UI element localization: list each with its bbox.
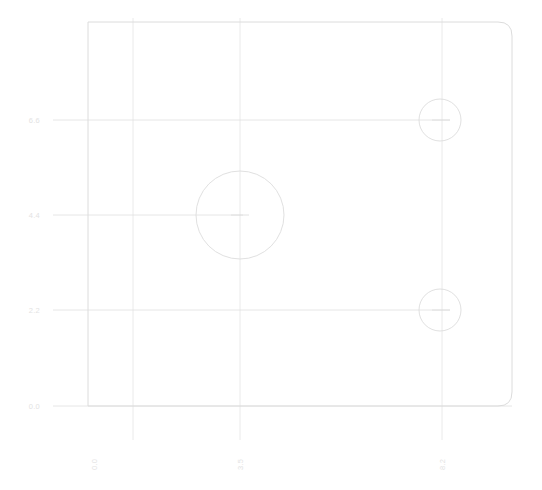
- y-axis-tick-label-6-6: 6.6: [14, 116, 40, 125]
- center-marks-group: [231, 120, 450, 310]
- x-axis-tick-label-0-0: 0.0: [90, 459, 99, 470]
- y-axis-tick-label-0-0: 0.0: [14, 402, 40, 411]
- technical-drawing-canvas: 6.6 4.4 2.2 0.0 0.0 3.5 8.2: [0, 0, 542, 490]
- y-axis-tick-label-4-4: 4.4: [14, 211, 40, 220]
- x-axis-tick-label-8-2: 8.2: [438, 459, 447, 470]
- x-axis-tick-label-3-5: 3.5: [236, 459, 245, 470]
- construction-lines-group: [53, 18, 512, 440]
- drawing-vector-layer: [0, 0, 542, 490]
- y-axis-tick-label-2-2: 2.2: [14, 306, 40, 315]
- plate-outline: [88, 22, 512, 406]
